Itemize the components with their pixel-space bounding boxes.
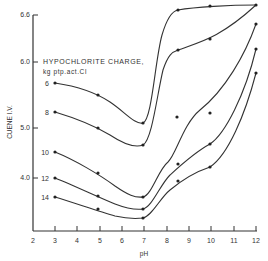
x-tick-label: 5 (98, 237, 102, 244)
x-tick-label: 9 (187, 237, 191, 244)
y-axis-label: CUENE I.V. (6, 105, 13, 139)
x-tick-label: 12 (252, 237, 260, 244)
series-label-12: 12 (41, 175, 49, 182)
y-tick-label: 6.0 (20, 58, 30, 65)
x-tick-label: 3 (53, 237, 57, 244)
series-label-14: 14 (41, 194, 49, 201)
y-tick-label: 5.0 (20, 124, 30, 131)
x-tick-label: 2 (31, 237, 35, 244)
x-tick-label: 8 (165, 237, 169, 244)
annotation-title: HYPOCHLORITE CHARGE, (43, 58, 144, 65)
x-tick-label: 6 (120, 237, 124, 244)
x-axis-label: pH (140, 250, 149, 258)
series-label-6: 6 (45, 80, 49, 87)
x-tick-label: 11 (230, 237, 237, 244)
data-points (53, 3, 257, 219)
annotation-subtitle: kg ptp.act.Cl (43, 68, 87, 76)
curves (55, 5, 256, 219)
y-tick-label: 4.0 (20, 174, 30, 181)
y-tick-labels: 6.6 6.0 5.0 4.0 (20, 11, 30, 181)
series-labels: 6 8 10 12 14 (41, 80, 49, 201)
series-label-10: 10 (41, 149, 49, 156)
x-ticks (55, 226, 256, 231)
y-ticks (33, 15, 38, 178)
chart: 6.6 6.0 5.0 4.0 2 3 4 5 6 7 8 9 10 11 12… (0, 0, 268, 261)
x-tick-labels: 2 3 4 5 6 7 8 9 10 11 12 (31, 237, 260, 244)
x-tick-label: 10 (207, 237, 215, 244)
x-tick-label: 4 (75, 237, 79, 244)
series-label-8: 8 (45, 109, 49, 116)
y-tick-label: 6.6 (20, 11, 30, 18)
x-tick-label: 7 (142, 237, 146, 244)
chart-svg: 6.6 6.0 5.0 4.0 2 3 4 5 6 7 8 9 10 11 12… (0, 0, 268, 261)
